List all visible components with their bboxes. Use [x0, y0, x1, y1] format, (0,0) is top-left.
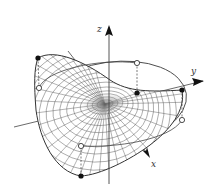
surface-point-bottom	[78, 173, 83, 178]
circle-point-right	[179, 117, 184, 122]
surface-point-front	[134, 90, 139, 95]
circle-point-bottom	[78, 143, 83, 148]
circle-point-left	[36, 85, 41, 90]
circle-point-back	[134, 60, 139, 65]
x-axis-label: x	[151, 159, 156, 169]
z-axis-label: z	[96, 24, 102, 34]
y-axis-label: y	[190, 66, 197, 76]
surface-point-left	[35, 55, 40, 60]
y-axis-arrow-icon	[192, 78, 204, 86]
saddle-surface-diagram: z y x	[0, 0, 217, 196]
surface-point-right	[179, 87, 184, 92]
